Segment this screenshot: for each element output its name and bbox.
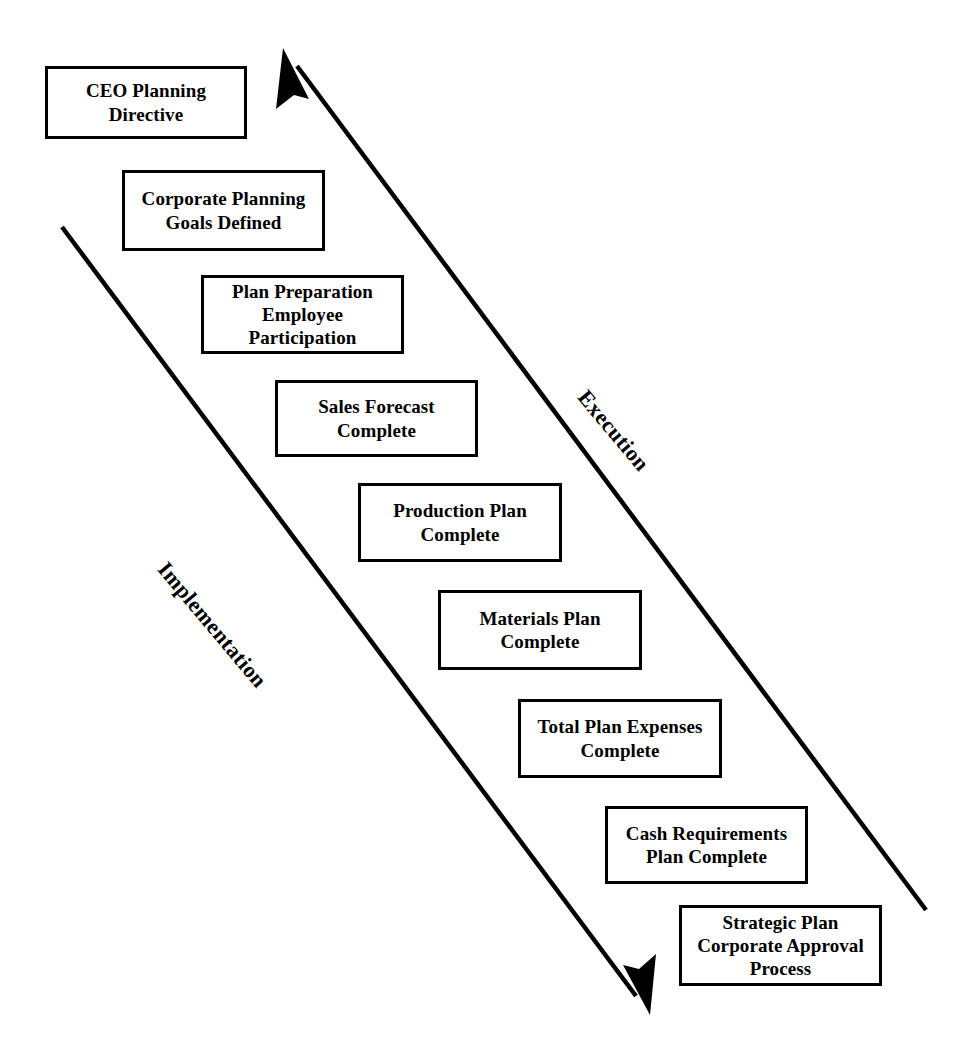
execution-arrow — [276, 48, 926, 910]
milestone-label-5: Production Plan Complete — [387, 499, 533, 545]
milestone-label-1: CEO Planning Directive — [80, 79, 212, 125]
milestone-label-4: Sales Forecast Complete — [312, 395, 441, 441]
milestone-label-7: Total Plan Expenses Complete — [532, 715, 709, 761]
milestone-box-2[interactable]: Corporate Planning Goals Defined — [122, 170, 325, 251]
milestone-box-9[interactable]: Strategic Plan Corporate Approval Proces… — [679, 905, 882, 986]
milestone-box-3[interactable]: Plan Preparation Employee Participation — [201, 275, 404, 354]
milestone-label-6: Materials Plan Complete — [473, 607, 606, 653]
milestone-label-3: Plan Preparation Employee Participation — [226, 280, 379, 350]
milestone-box-7[interactable]: Total Plan Expenses Complete — [518, 699, 722, 778]
milestone-box-4[interactable]: Sales Forecast Complete — [275, 380, 478, 457]
milestone-box-1[interactable]: CEO Planning Directive — [45, 66, 247, 139]
milestone-label-8: Cash Requirements Plan Complete — [620, 822, 793, 868]
milestone-label-2: Corporate Planning Goals Defined — [136, 187, 312, 233]
milestone-box-5[interactable]: Production Plan Complete — [358, 483, 562, 562]
diagram-canvas: Execution Implementation CEO Planning Di… — [0, 0, 962, 1063]
milestone-box-8[interactable]: Cash Requirements Plan Complete — [605, 806, 808, 884]
milestone-box-6[interactable]: Materials Plan Complete — [438, 590, 642, 670]
milestone-label-9: Strategic Plan Corporate Approval Proces… — [691, 911, 870, 981]
